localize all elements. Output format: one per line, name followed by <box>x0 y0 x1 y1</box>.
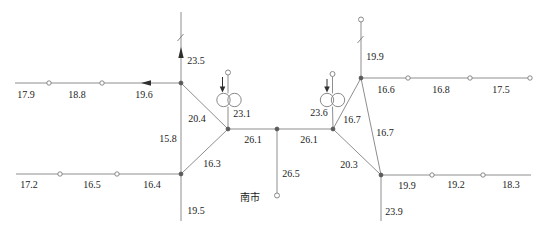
value-label: 16.5 <box>83 179 101 190</box>
terminal-node <box>359 17 364 22</box>
line-node <box>481 173 485 177</box>
value-label: 18.3 <box>502 179 520 190</box>
line-segment <box>333 107 334 129</box>
value-label: 16.3 <box>203 158 221 169</box>
load-arrow-icon <box>324 87 330 93</box>
terminal-node <box>226 70 231 75</box>
value-label: 23.9 <box>385 206 403 217</box>
line-node <box>100 81 104 85</box>
line-node <box>115 172 119 176</box>
network-diagram-canvas: 17.918.819.623.517.216.516.419.515.820.4… <box>0 0 548 236</box>
value-label: 19.9 <box>398 180 416 191</box>
value-label: 26.1 <box>300 134 318 145</box>
value-label: 16.7 <box>343 114 361 125</box>
junction-node <box>359 76 363 80</box>
terminal-node <box>275 193 280 198</box>
junction-node <box>275 127 279 131</box>
value-label: 23.5 <box>187 55 205 66</box>
load-arrow-icon <box>220 87 226 93</box>
value-label: 23.6 <box>310 107 328 118</box>
junction-node <box>179 81 183 85</box>
power-flow-arrow-icon <box>178 47 183 58</box>
value-label: 16.7 <box>376 127 394 138</box>
value-label: 16.6 <box>377 84 395 95</box>
value-label: 15.8 <box>159 133 177 144</box>
network-diagram: 17.918.819.623.517.216.516.419.515.820.4… <box>0 0 548 236</box>
value-label: 20.3 <box>340 159 358 170</box>
line-node <box>58 172 62 176</box>
value-label: 20.4 <box>188 113 206 124</box>
value-label: 19.5 <box>187 205 205 216</box>
value-label: 16.4 <box>143 179 161 190</box>
junction-node <box>226 127 230 131</box>
value-label: 19.9 <box>366 51 384 62</box>
line-node <box>406 76 410 80</box>
value-label: 23.1 <box>233 108 251 119</box>
line-node <box>430 173 434 177</box>
value-label: 19.2 <box>447 179 465 190</box>
value-label: 17.9 <box>17 89 35 100</box>
station-label: 南市 <box>240 191 260 203</box>
power-flow-arrow-icon <box>141 80 151 85</box>
line-node <box>528 76 532 80</box>
junction-node <box>331 127 335 131</box>
junction-node <box>179 172 183 176</box>
value-label: 26.5 <box>282 168 300 179</box>
value-label: 26.1 <box>244 134 262 145</box>
value-label: 17.2 <box>20 179 38 190</box>
value-label: 17.5 <box>492 84 510 95</box>
value-label: 19.6 <box>135 89 153 100</box>
value-label: 18.8 <box>68 89 86 100</box>
value-label: 16.8 <box>432 84 450 95</box>
terminal-node <box>330 72 335 77</box>
junction-node <box>379 173 383 177</box>
line-node <box>47 81 51 85</box>
line-node <box>468 76 472 80</box>
